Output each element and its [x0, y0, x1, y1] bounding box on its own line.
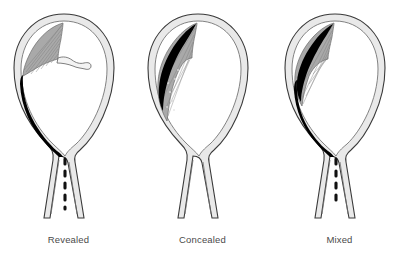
- uterus-diagram-revealed: [0, 4, 137, 232]
- panel-concealed: Concealed: [134, 0, 271, 259]
- abruption-figure: Revealed: [0, 0, 410, 259]
- panel-label-concealed: Concealed: [134, 234, 271, 245]
- uterus-diagram-concealed: [134, 4, 271, 232]
- amniotic-cavity: [21, 21, 107, 156]
- panel-label-revealed: Revealed: [0, 234, 137, 245]
- uterus-diagram-mixed: [271, 4, 408, 232]
- panel-revealed: Revealed: [0, 0, 137, 259]
- panel-label-mixed: Mixed: [271, 234, 408, 245]
- panel-mixed: Mixed: [271, 0, 408, 259]
